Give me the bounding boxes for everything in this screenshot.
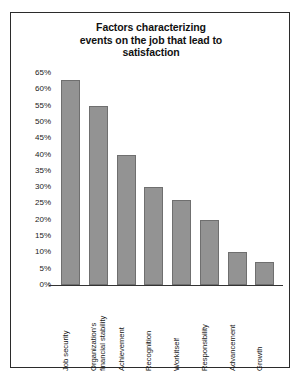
chart-title-line-2: events on the job that lead to: [23, 34, 279, 47]
x-axis-label: Job security: [61, 289, 80, 373]
bar: [89, 106, 108, 285]
chart-title: Factors characterizing events on the job…: [23, 21, 279, 59]
x-axis-label: Achievement: [117, 289, 136, 373]
bar: [200, 220, 219, 285]
x-axis-label: Advancement: [228, 289, 247, 373]
x-axis-label-text: Organization'sfinancial stability: [89, 316, 107, 371]
chart-title-line-1: Factors characterizing: [23, 21, 279, 34]
x-axis-label-line: Job security: [61, 330, 70, 371]
x-axis-label-line: Recognition: [144, 331, 153, 371]
bar: [228, 252, 247, 285]
x-axis-label-text: Responsibility: [200, 324, 209, 371]
x-axis-baseline: [49, 285, 283, 286]
x-axis-labels: Job securityOrganization'sfinancial stab…: [49, 289, 281, 375]
bar-series: [49, 73, 281, 285]
x-axis-label: Responsibility: [200, 289, 219, 373]
chart-page: Factors characterizing events on the job…: [0, 0, 305, 378]
x-axis-label: Workitself: [172, 289, 191, 373]
x-axis-label: Recognition: [144, 289, 163, 373]
x-axis-label-line: Achievement: [117, 327, 126, 371]
x-axis-label-text: Advancement: [228, 325, 237, 371]
bar: [255, 262, 274, 285]
chart-title-line-3: satisfaction: [23, 46, 279, 59]
y-axis: 65%60%55%50%45%40%35%30%25%20%15%10%5%0%: [25, 73, 51, 285]
x-axis-label-line: Workitself: [172, 338, 181, 371]
x-axis-label-text: Workitself: [172, 338, 181, 371]
x-axis-label: Growth: [255, 289, 274, 373]
bar: [117, 155, 136, 285]
x-axis-label-line: Advancement: [228, 325, 237, 371]
bar: [172, 200, 191, 285]
bar: [61, 80, 80, 285]
x-axis-label-text: Job security: [61, 330, 70, 371]
bar: [144, 187, 163, 285]
x-axis-label-text: Growth: [255, 347, 264, 371]
x-axis-label: Organization'sfinancial stability: [89, 289, 108, 373]
x-axis-label-line: Responsibility: [200, 324, 209, 371]
x-axis-label-line: financial stability: [98, 316, 107, 371]
chart-frame: Factors characterizing events on the job…: [10, 12, 290, 368]
x-axis-label-line: Growth: [255, 347, 264, 371]
x-axis-label-text: Recognition: [144, 331, 153, 371]
x-axis-label-text: Achievement: [117, 327, 126, 371]
x-axis-label-line: Organization's: [89, 323, 98, 371]
